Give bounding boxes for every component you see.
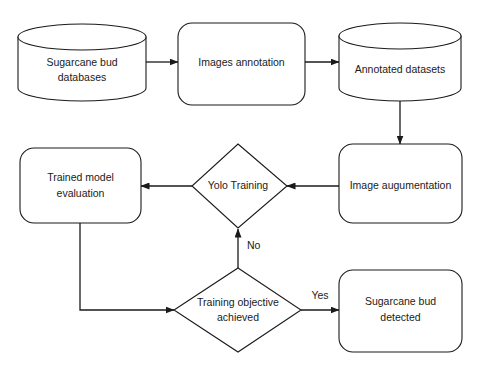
flowchart-diagram: Sugarcane bud databases Images annotatio…	[0, 0, 480, 371]
node-label-line1: Sugarcane bud	[46, 56, 117, 68]
node-label-line1: Image augumentation	[350, 179, 452, 191]
node-label-line1: Trained model	[47, 171, 114, 183]
node-label-line1: Sugarcane bud	[365, 295, 436, 307]
node-trained-model-evaluation[interactable]: Trained model evaluation	[20, 148, 141, 223]
node-training-objective-achieved[interactable]: Training objective achieved	[174, 268, 301, 352]
node-label-line1: Training objective	[197, 296, 279, 308]
rounded-rect-shape	[20, 148, 141, 223]
node-label-line1: Yolo Training	[208, 179, 268, 191]
node-images-annotation[interactable]: Images annotation	[178, 23, 305, 105]
node-image-augumentation[interactable]: Image augumentation	[339, 144, 462, 223]
edge-label-no: No	[247, 239, 261, 251]
flowchart-canvas: Sugarcane bud databases Images annotatio…	[0, 0, 480, 371]
cylinder-top	[339, 23, 461, 49]
node-sugarcane-bud-databases[interactable]: Sugarcane bud databases	[18, 24, 146, 101]
node-sugarcane-bud-detected[interactable]: Sugarcane bud detected	[339, 270, 462, 352]
edge-evaluation-to-objective	[80, 223, 174, 310]
node-label-line2: databases	[58, 71, 106, 83]
node-label-line1: Images annotation	[198, 56, 285, 68]
node-label-line2: evaluation	[57, 187, 105, 199]
node-yolo-training[interactable]: Yolo Training	[192, 144, 287, 228]
cylinder-top	[18, 24, 146, 50]
edge-label-yes: Yes	[311, 289, 328, 301]
node-label-line2: detected	[380, 311, 420, 323]
node-label-line2: achieved	[217, 311, 259, 323]
node-annotated-datasets[interactable]: Annotated datasets	[339, 23, 461, 101]
node-label-line1: Annotated datasets	[355, 63, 446, 75]
